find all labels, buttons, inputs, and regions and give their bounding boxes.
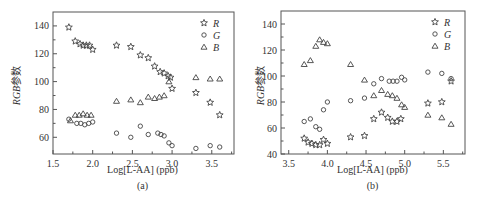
- data-point-triangle-marker: [379, 88, 385, 93]
- x-tick-label: 1.5: [47, 158, 60, 169]
- data-point-circle-marker: [129, 135, 133, 139]
- data-point-circle-marker: [308, 117, 312, 121]
- y-tick-label: 100: [262, 71, 277, 82]
- series-B: [67, 75, 222, 123]
- data-point-triangle-marker: [207, 76, 213, 81]
- data-point-triangle-marker: [385, 91, 391, 96]
- data-point-circle-marker: [90, 120, 94, 124]
- data-point-circle-marker: [138, 124, 142, 128]
- plot-frame: [53, 12, 234, 154]
- series-B: [301, 37, 454, 127]
- data-point-triangle-marker: [361, 77, 367, 82]
- legend-triangle-marker: [201, 44, 207, 49]
- data-point-triangle-marker: [137, 100, 143, 105]
- legend-triangle-marker: [432, 43, 438, 48]
- data-point-circle-marker: [402, 78, 406, 82]
- y-tick-label: 80: [39, 104, 49, 115]
- legend-label-G: G: [213, 30, 220, 41]
- data-point-star-marker: [397, 115, 404, 122]
- data-point-triangle-marker: [348, 62, 354, 67]
- x-tick-label: 4.0: [321, 158, 334, 169]
- data-point-star-marker: [384, 114, 391, 121]
- legend-label-B: B: [213, 42, 219, 53]
- data-point-circle-marker: [325, 100, 329, 104]
- y-tick-label: 40: [267, 149, 277, 160]
- data-point-circle-marker: [170, 143, 174, 147]
- data-point-star-marker: [370, 115, 377, 122]
- data-point-star-marker: [145, 54, 152, 61]
- series-R: [65, 24, 223, 118]
- data-point-circle-marker: [146, 132, 150, 136]
- data-point-star-marker: [438, 98, 445, 105]
- data-point-star-marker: [89, 46, 96, 53]
- x-tick-label: 5.5: [437, 158, 450, 169]
- data-point-circle-marker: [317, 127, 321, 131]
- y-tick-label: 80: [267, 97, 277, 108]
- legend-label-G: G: [444, 29, 451, 40]
- legend-star-marker: [432, 18, 439, 25]
- data-point-triangle-marker: [425, 112, 431, 117]
- data-point-triangle-marker: [128, 97, 134, 102]
- data-point-triangle-marker: [217, 76, 223, 81]
- data-point-circle-marker: [302, 119, 306, 123]
- data-point-circle-marker: [379, 76, 383, 80]
- data-point-circle-marker: [372, 82, 376, 86]
- series-G: [302, 70, 453, 132]
- y-tick-label: 120: [34, 48, 49, 59]
- y-tick-label: 60: [39, 132, 49, 143]
- data-point-star-marker: [169, 85, 176, 92]
- data-point-triangle-marker: [448, 121, 454, 126]
- legend-label-R: R: [212, 18, 219, 29]
- data-point-star-marker: [113, 42, 120, 49]
- legend-circle-marker: [433, 32, 437, 36]
- data-point-triangle-marker: [317, 37, 323, 42]
- data-point-star-marker: [207, 99, 214, 106]
- data-point-star-marker: [424, 100, 431, 107]
- data-point-triangle-marker: [307, 58, 313, 63]
- data-point-star-marker: [192, 89, 199, 96]
- legend-star-marker: [201, 19, 208, 26]
- data-point-triangle-marker: [301, 62, 307, 67]
- data-point-star-marker: [378, 109, 385, 116]
- x-tick-label: 4.5: [360, 158, 373, 169]
- series-R: [301, 78, 455, 148]
- data-point-star-marker: [320, 136, 327, 143]
- data-point-triangle-marker: [439, 115, 445, 120]
- data-point-star-marker: [151, 63, 158, 70]
- data-point-circle-marker: [114, 131, 118, 135]
- legend-label-R: R: [443, 17, 450, 28]
- x-tick-label: 3.5: [282, 158, 295, 169]
- data-point-star-marker: [127, 43, 134, 50]
- data-point-circle-marker: [440, 71, 444, 75]
- data-point-star-marker: [361, 132, 368, 139]
- y-tick-label: 120: [262, 45, 277, 56]
- data-point-triangle-marker: [313, 43, 319, 48]
- y-tick-label: 140: [262, 19, 277, 30]
- data-point-circle-marker: [208, 143, 212, 147]
- data-point-triangle-marker: [114, 98, 120, 103]
- x-tick-label: 3.0: [166, 158, 179, 169]
- chart-a: 1.52.02.53.03.56080100120140RGB: [34, 12, 234, 169]
- x-tick-label: 3.5: [206, 158, 219, 169]
- legend: RGB: [201, 18, 221, 53]
- data-point-circle-marker: [362, 96, 366, 100]
- data-point-circle-marker: [218, 145, 222, 149]
- legend: RGB: [432, 17, 452, 52]
- legend-label-B: B: [444, 41, 450, 52]
- y-tick-label: 60: [267, 123, 277, 134]
- series-G: [67, 117, 222, 151]
- data-point-star-marker: [347, 134, 354, 141]
- data-point-circle-marker: [426, 70, 430, 74]
- data-point-circle-marker: [348, 99, 352, 103]
- y-tick-label: 100: [34, 76, 49, 87]
- legend-circle-marker: [202, 33, 206, 37]
- data-point-star-marker: [137, 52, 144, 59]
- data-point-circle-marker: [321, 108, 325, 112]
- x-tick-label: 2.5: [126, 158, 139, 169]
- data-point-triangle-marker: [193, 75, 199, 80]
- data-point-star-marker: [301, 135, 308, 142]
- x-tick-label: 2.0: [86, 158, 99, 169]
- data-point-star-marker: [216, 111, 223, 118]
- y-tick-label: 140: [34, 20, 49, 31]
- scatter-plots: 1.52.02.53.03.56080100120140RGB3.54.04.5…: [0, 0, 482, 205]
